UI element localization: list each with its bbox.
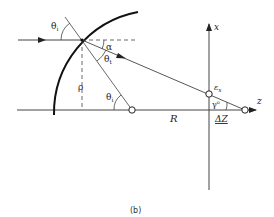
x-axis-label: x	[214, 22, 219, 32]
delta-z-point	[242, 107, 248, 113]
incident-ray-arrowhead	[38, 37, 46, 43]
theta-t-label: θt	[104, 54, 112, 65]
theta-i-bottom-angle-arc	[114, 95, 121, 110]
theta-i-bottom-label: θi	[106, 92, 113, 103]
refracted-ray-arrowhead	[116, 53, 126, 59]
spherical-surface-arc	[54, 12, 138, 115]
theta-i-top-label: θi	[51, 21, 58, 32]
figure-caption: (b)	[130, 206, 141, 215]
optics-diagram: θi α θt ρ θi R εx γo ΔZ x z (b)	[0, 0, 274, 217]
surface-normal-line	[65, 17, 132, 110]
delta-z-label: ΔZ	[214, 114, 228, 124]
gamma-angle-arc	[226, 102, 227, 110]
epsilon-x-point	[206, 91, 212, 97]
alpha-label: α	[106, 42, 112, 52]
z-axis-label: z	[256, 96, 262, 106]
theta-i-top-angle-arc	[61, 23, 70, 40]
center-point	[129, 107, 135, 113]
gamma-label: γo	[212, 99, 220, 109]
alpha-angle-arc	[102, 40, 104, 49]
epsilon-x-label: εx	[214, 83, 222, 93]
R-label: R	[169, 113, 178, 124]
rho-label: ρ	[78, 82, 83, 92]
incident-point	[80, 38, 83, 41]
